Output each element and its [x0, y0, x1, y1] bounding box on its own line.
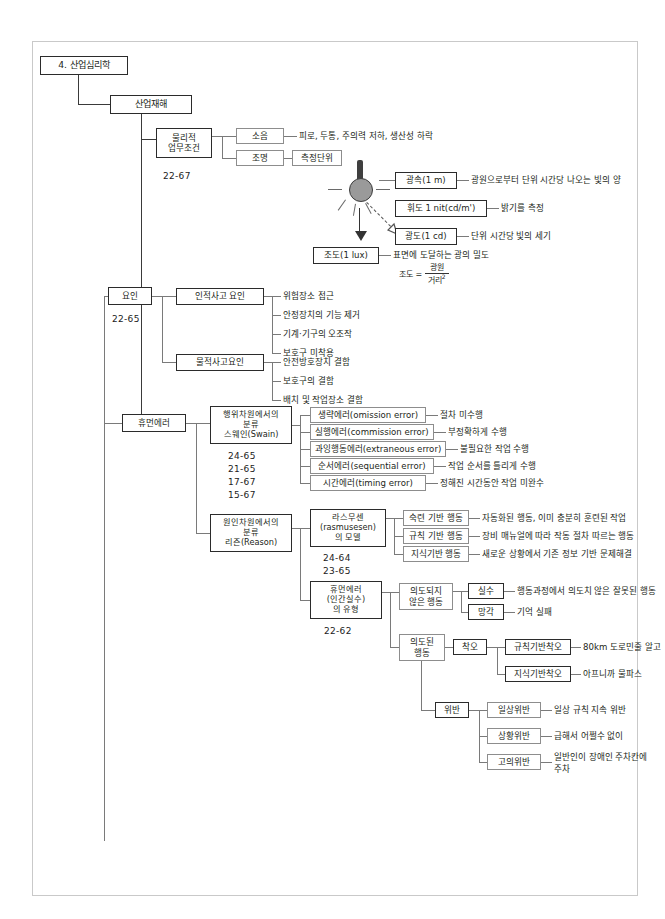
node-mistake[interactable]: 착오: [453, 639, 487, 655]
node-title[interactable]: 4. 산업심리학: [40, 56, 128, 75]
formula-lhs: 조도 =: [399, 270, 422, 279]
node-rasmussen-model[interactable]: 라스무센 (rasmusesen) 의 모델: [310, 509, 386, 547]
desc-timing-error: 정해진 시간동안 작업 미완수: [440, 478, 544, 490]
node-intended-action-label: 의도된 행동: [410, 637, 434, 657]
node-rasmussen-label: 라스무센 (rasmusesen) 의 모델: [320, 513, 376, 542]
node-slip[interactable]: 실수: [468, 583, 504, 599]
ref-rasmussen: 24-64 23-65: [323, 552, 351, 578]
formula-exponent: 2: [442, 273, 446, 280]
node-human-error[interactable]: 휴먼에러: [122, 414, 186, 432]
node-physical-conditions[interactable]: 물리적 업무조건: [156, 128, 212, 158]
desc-slip: 행동과정에서 의도치 않은 잘못된 행동: [517, 586, 656, 598]
node-noise[interactable]: 소음: [236, 128, 284, 144]
mindmap-canvas: 4. 산업심리학 산업재해 물리적 업무조건 22-67 소음 피로, 두통, …: [0, 0, 665, 919]
ref-physical-conditions: 22-67: [163, 170, 191, 183]
node-lapse[interactable]: 망각: [468, 604, 504, 620]
formula-fraction: 광원 거리2: [425, 264, 449, 285]
ref-human-error-types: 22-62: [324, 625, 352, 638]
node-human-accident-factor[interactable]: 인적사고 요인: [176, 288, 264, 305]
node-luminance[interactable]: 휘도 1 nit(cd/m'): [395, 200, 487, 217]
formula-denominator: 거리2: [425, 273, 449, 285]
desc-rule-based-behavior: 장비 매뉴얼에 따라 작동 절차 따르는 행동: [482, 531, 634, 543]
node-root[interactable]: 산업재해: [110, 95, 192, 114]
desc-knowledge-based-mistake: 아프니까 물파스: [583, 669, 642, 681]
node-luminous-flux[interactable]: 광속(1 m): [395, 172, 457, 189]
desc-situational-violation: 급해서 어쩔수 없이: [554, 731, 623, 743]
desc-commission-error: 부정확하게 수행: [448, 427, 507, 439]
desc-extraneous-error: 불필요한 작업 수행: [460, 444, 529, 456]
item-human-factor-2: 안정장치의 기능 제거: [283, 310, 360, 322]
ref-swain: 24-65 21-65 17-67 15-67: [228, 450, 256, 502]
item-material-factor-3: 배치 및 작업장소 결함: [283, 395, 363, 407]
desc-lapse: 기억 실패: [517, 607, 552, 619]
node-illuminance[interactable]: 조도(1 lux): [313, 247, 379, 264]
node-factor[interactable]: 요인: [108, 287, 152, 305]
node-intended-action[interactable]: 의도된 행동: [399, 634, 445, 661]
node-luminous-intensity[interactable]: 광도(1 cd): [395, 228, 457, 245]
node-knowledge-based-mistake[interactable]: 지식기반착오: [505, 666, 571, 682]
desc-noise: 피로, 두통, 주의력 저하, 생산성 하락: [299, 131, 433, 143]
formula-numerator: 광원: [425, 264, 449, 273]
node-omission-error[interactable]: 생략에러(omission error): [310, 407, 426, 423]
item-material-factor-2: 보호구의 결함: [283, 376, 334, 388]
node-rule-based-behavior[interactable]: 규칙 기반 행동: [403, 528, 469, 544]
desc-omission-error: 절차 미수행: [440, 410, 483, 422]
desc-skill-based-behavior: 자동화된 행동, 이미 충분히 훈련된 작업: [482, 513, 626, 525]
node-reason-classification[interactable]: 원인차원에서의 분류 리즌(Reason): [210, 514, 292, 552]
desc-luminous-intensity: 단위 시간당 빛의 세기: [471, 231, 551, 243]
node-intentional-violation[interactable]: 고의위반: [487, 754, 541, 770]
item-human-factor-1: 위험장소 접근: [283, 291, 334, 303]
node-unintended-action[interactable]: 의도되지 않은 행동: [399, 583, 453, 610]
illuminance-formula: 조도 = 광원 거리2: [399, 264, 449, 285]
desc-luminous-flux: 광원으로부터 단위 시간당 나오는 빛의 양: [471, 175, 621, 187]
node-timing-error[interactable]: 시간에러(timing error): [310, 475, 426, 491]
desc-knowledge-based-behavior: 새로운 상황에서 기존 정보 기반 문제해결: [482, 549, 632, 561]
node-knowledge-based-behavior[interactable]: 지식기반 행동: [403, 546, 469, 562]
node-material-accident-factor[interactable]: 물적사고요인: [176, 354, 264, 371]
node-commission-error[interactable]: 실행에러(commission error): [310, 424, 434, 440]
node-situational-violation[interactable]: 상황위반: [487, 728, 541, 744]
node-reason-label: 원인차원에서의 분류 리즌(Reason): [223, 518, 279, 547]
item-human-factor-3: 기계·기구의 오조작: [283, 329, 352, 341]
node-swain-label: 행위차원에서의 분류 스웨인(Swain): [223, 410, 279, 439]
node-skill-based-behavior[interactable]: 숙련 기반 행동: [403, 510, 469, 526]
item-material-factor-1: 안전방호장치 결함: [283, 357, 350, 369]
node-rule-based-mistake[interactable]: 규칙기반착오: [505, 639, 571, 655]
desc-rule-based-mistake: 80km 도로민줄 알고: [583, 642, 661, 654]
node-unintended-action-label: 의도되지 않은 행동: [409, 586, 444, 606]
node-human-error-types[interactable]: 휴먼에러 (인간실수) 의 유형: [310, 581, 382, 619]
desc-intentional-violation: 일반인이 장애인 주차칸에 주차: [554, 752, 647, 775]
node-physical-conditions-label: 물리적 업무조건: [168, 133, 200, 153]
node-extraneous-error[interactable]: 과잉행동에러(extraneous error): [310, 441, 446, 457]
node-lighting[interactable]: 조명: [236, 150, 284, 166]
node-human-error-types-label: 휴먼에러 (인간실수) 의 유형: [327, 585, 365, 614]
desc-luminance: 밝기를 측정: [501, 203, 544, 215]
node-routine-violation[interactable]: 일상위반: [487, 702, 541, 718]
desc-illuminance: 표면에 도달하는 광의 밀도: [393, 250, 489, 262]
desc-sequential-error: 작업 순서를 틀리게 수행: [448, 461, 536, 473]
node-sequential-error[interactable]: 순서에러(sequential error): [310, 458, 434, 474]
desc-routine-violation: 일상 규칙 지속 위반: [554, 705, 626, 717]
node-measure-unit[interactable]: 측정단위: [292, 150, 342, 166]
node-swain-classification[interactable]: 행위차원에서의 분류 스웨인(Swain): [210, 406, 292, 444]
ref-factor: 22-65: [112, 313, 140, 326]
node-violation[interactable]: 위반: [435, 702, 469, 718]
